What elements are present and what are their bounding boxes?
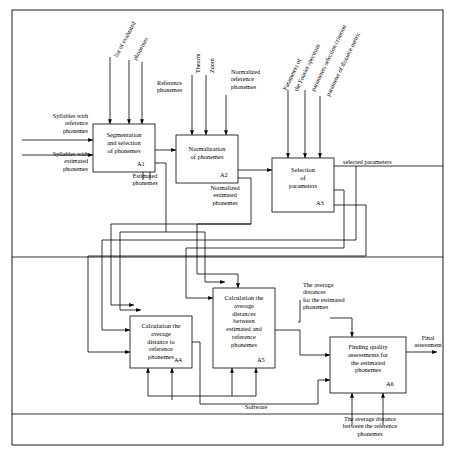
flow-label-normalized-estimated-phonemes: Normalizedestimatedphonemes — [192, 184, 258, 206]
flow-label-final-assessment: Finalassessment — [404, 334, 452, 349]
control-label-reference-phonemes: Referencephonemes — [157, 79, 217, 94]
box-a6-label: Finding qualityassessments forthe estima… — [332, 343, 404, 374]
flow-label-software: Software — [245, 403, 267, 410]
box-a3-code: A3 — [316, 199, 324, 206]
box-a6-code: A6 — [386, 380, 394, 387]
flow-label-average-distance-reference: The average distancebetween the referenc… — [300, 415, 440, 437]
input-label-1: Syllables withreferencephonemes — [0, 112, 88, 134]
flow-label-estimated-phonemes: Estimatedphonemes — [114, 172, 176, 187]
box-a5-code: A5 — [257, 356, 265, 363]
box-a2-code: A2 — [220, 171, 228, 178]
flow-label-selected-parameters: selected parameters — [343, 158, 433, 165]
box-a5-label: Calculation theaveragedistancesbetweenes… — [215, 294, 273, 349]
control-label-theorem: Theorm — [194, 53, 201, 73]
flow-label-average-distances-estimated: The averagedistancesfor the estimatedpho… — [303, 281, 375, 311]
box-a4-code: A4 — [174, 356, 182, 363]
idef0-diagram: Segmentationand selectionof phonemes A1 … — [0, 0, 455, 455]
box-a1-code: A1 — [137, 160, 145, 167]
box-a3-label: Selectionofparameters — [274, 166, 332, 189]
input-label-2: Syllables withestimatedphonemes — [0, 150, 88, 172]
control-label-zoom: Zoom — [208, 58, 215, 73]
box-a1-label: Segmentationand selectionof phonemes — [95, 131, 153, 154]
box-a2-label: Normalizationof phonemes — [178, 145, 236, 161]
